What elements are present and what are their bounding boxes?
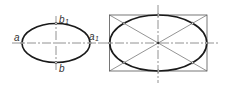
- label-b1: b1: [59, 14, 69, 25]
- diag-point-bl: [123, 62, 125, 64]
- vertex-bottom: [157, 70, 159, 72]
- point-b1: [55, 22, 57, 24]
- vertex-top: [157, 14, 159, 16]
- point-a: [21, 42, 23, 44]
- right-figure: [100, 5, 220, 83]
- diagram-canvas: a a1 b1 b: [0, 0, 230, 88]
- diag-point-tr: [192, 22, 194, 24]
- left-figure: a a1 b1 b: [12, 14, 100, 74]
- point-a1: [89, 42, 91, 44]
- vertex-left: [109, 42, 111, 44]
- vertex-right: [206, 42, 208, 44]
- diag-point-br: [192, 62, 194, 64]
- center-point: [157, 42, 159, 44]
- label-a1: a1: [89, 31, 99, 42]
- diag-point-tl: [123, 22, 125, 24]
- point-b: [55, 61, 57, 63]
- label-b: b: [59, 63, 65, 74]
- label-a: a: [14, 32, 20, 43]
